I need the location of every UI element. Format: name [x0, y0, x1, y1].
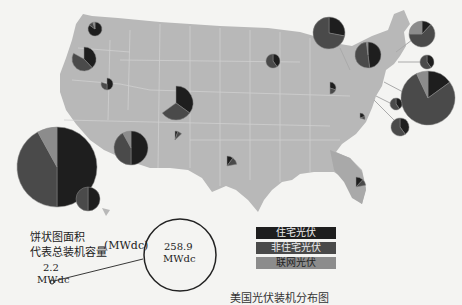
size-legend-min-unit: MWdc — [37, 272, 70, 287]
figure-caption: 美国光伏装机分布图 — [230, 289, 329, 305]
pie-slice — [409, 21, 422, 34]
pie-slice — [88, 187, 100, 211]
legend-residential: 住宅光伏 — [256, 227, 336, 239]
size-legend-label-1: 饼状图面积 — [30, 230, 85, 245]
legend-utility: 联网光伏 — [256, 257, 336, 269]
size-legend-label-2: 代表总装机容量 — [30, 245, 107, 260]
legend-non-residential: 非住宅光伏 — [256, 242, 336, 254]
color-legend: 住宅光伏 非住宅光伏 联网光伏 — [256, 227, 336, 272]
size-legend-max-unit: MWdc — [163, 251, 196, 266]
florida — [330, 150, 366, 204]
pie-slice — [329, 17, 345, 36]
size-legend-unit: (MWdc) — [104, 238, 148, 253]
